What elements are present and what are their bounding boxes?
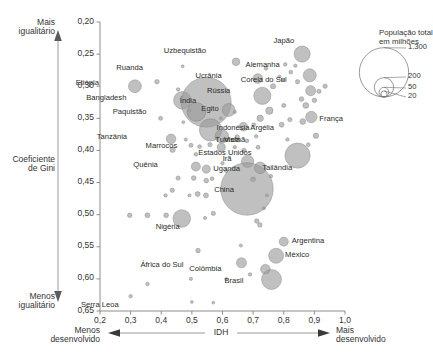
bubble-label-egito: Egito — [201, 105, 218, 113]
bubble-unlabeled-19 — [145, 213, 150, 218]
x-tick-label-4: 0,6 — [217, 316, 229, 325]
y-tick-label-5: 0,45 — [77, 177, 94, 186]
bubble-uzbequistão — [232, 58, 240, 66]
x-axis-right-annotation-line2: desenvolvido — [336, 335, 386, 344]
legend-bubble-1300 — [359, 48, 408, 97]
bubble-unlabeled-26 — [190, 301, 193, 304]
bubble-label-bangladesh: Bangladesh — [86, 94, 126, 102]
bubble-label-estados-unidos: Estados Unidos — [198, 149, 251, 157]
bubble-label-tunísia: Tunísia — [215, 136, 240, 144]
x-axis-title: IDH — [214, 328, 229, 337]
bubble-unlabeled-18 — [127, 213, 132, 218]
bubble-egito — [222, 103, 235, 116]
bubble-unlabeled-70 — [181, 65, 184, 68]
bubble-unlabeled-13 — [164, 194, 168, 198]
y-tick-label-3: 0,35 — [77, 113, 94, 122]
bubble-unlabeled-20 — [164, 213, 169, 218]
bubble-unlabeled-31 — [255, 219, 260, 224]
bubble-unlabeled-39 — [257, 115, 263, 121]
bubble-etiópia — [128, 80, 141, 93]
x-tick-label-6: 0,8 — [278, 316, 290, 325]
y-tick-label-6: 0,50 — [77, 209, 94, 218]
bubble-label-rússia: Rússia — [207, 87, 230, 95]
bubble-unlabeled-12 — [210, 177, 214, 181]
bubble-label-paquistão: Paquistão — [113, 108, 147, 116]
bubble-unlabeled-50 — [303, 103, 309, 109]
bubble-unlabeled-69 — [182, 121, 185, 124]
bubble-áfrica-do-sul — [236, 258, 246, 268]
bubble-unlabeled-47 — [294, 64, 298, 68]
bubble-uganda — [202, 165, 210, 173]
bubble-unlabeled-5 — [189, 143, 193, 147]
bubble-label-áfrica-do-sul: África do Sul — [140, 261, 183, 269]
y-tick-label-7: 0,55 — [77, 241, 94, 250]
bubble-unlabeled-48 — [295, 80, 299, 84]
bubble-unlabeled-62 — [256, 145, 260, 149]
bubble-unlabeled-27 — [212, 301, 215, 304]
y-axis-top-annotation-line2: igualitário — [19, 27, 55, 36]
bubble-label-ucrânia: Ucrânia — [196, 72, 222, 80]
bubble-serra-leoa — [129, 294, 133, 298]
x-tick-label-3: 0,5 — [186, 316, 198, 325]
legend-value-20: 20 — [408, 92, 416, 100]
legend-value-1300: 1.300 — [408, 43, 427, 51]
bubble-label-méxico: México — [285, 251, 309, 259]
bubble-unlabeled-60 — [313, 133, 318, 138]
x-tick-label-2: 0,4 — [155, 316, 167, 325]
bubble-unlabeled-23 — [196, 248, 201, 253]
bubble-unlabeled-22 — [211, 211, 215, 215]
legend-bubble-50 — [379, 87, 389, 97]
bubble-label-tailândia: Tailândia — [262, 164, 292, 172]
bubble-unlabeled-46 — [289, 70, 293, 74]
bubble-unlabeled-8 — [194, 152, 198, 156]
bubble-label-nigéria: Nigéria — [156, 223, 180, 231]
bubble-unlabeled-1 — [176, 88, 180, 92]
y-tick-label-8: 0,60 — [77, 273, 94, 282]
bubble-unlabeled-55 — [288, 117, 292, 121]
x-axis-left-annotation-line2: desenvolvido — [50, 335, 100, 344]
bubble-argentina — [279, 237, 288, 246]
bubble-unlabeled-57 — [279, 122, 284, 127]
legend-value-200: 200 — [408, 72, 421, 80]
bubble-label-quênia: Quênia — [133, 161, 158, 169]
bubble-alemanha — [303, 69, 316, 82]
bubble-label-marrocos: Marrocos — [146, 142, 178, 150]
bubble-unlabeled-29 — [239, 244, 242, 247]
bubble-label-uganda: Uganda — [213, 165, 240, 173]
bubble-label-frança: França — [319, 115, 343, 123]
y-tick-label-1: 0,25 — [77, 49, 94, 58]
bubble-méxico — [269, 248, 284, 263]
bubble-unlabeled-54 — [300, 119, 306, 125]
x-tick-label-7: 0,9 — [308, 316, 320, 325]
bubble-label-etiópia: Etiópia — [76, 79, 99, 87]
chart-axes — [54, 22, 345, 337]
y-axis-bottom-annotation-line2: igualitário — [19, 301, 55, 310]
bubble-frança — [306, 111, 317, 122]
bubble-unlabeled-52 — [317, 89, 321, 93]
bubble-unlabeled-49 — [299, 97, 304, 102]
bubble-unlabeled-16 — [195, 192, 200, 197]
bubble-quênia — [191, 162, 200, 171]
size-legend — [359, 48, 408, 97]
bubble-label-índia: Índia — [180, 97, 196, 105]
bubble-unlabeled-38 — [254, 135, 258, 139]
bubble-unlabeled-45 — [284, 63, 288, 67]
bubble-chart — [0, 0, 433, 359]
bubble-unlabeled-10 — [204, 178, 209, 183]
bubble-unlabeled-7 — [208, 143, 212, 147]
bubble-brasil — [262, 270, 282, 290]
x-tick-label-1: 0,3 — [125, 316, 137, 325]
y-tick-label-0: 0,20 — [77, 17, 94, 26]
bubble-label-argentina: Argentina — [292, 237, 325, 245]
bubble-unlabeled-58 — [286, 138, 290, 142]
x-tick-label-5: 0,7 — [247, 316, 259, 325]
bubble-unlabeled-15 — [188, 194, 191, 197]
y-tick-label-4: 0,40 — [77, 145, 94, 154]
bubble-japão — [294, 46, 310, 62]
bubble-unlabeled-17 — [203, 193, 208, 198]
bubble-label-serra-leoa: Serra Leoa — [81, 301, 119, 309]
bubble-unlabeled-21 — [203, 216, 206, 219]
bubble-ruanda — [155, 79, 160, 84]
bubble-coreia-do-sul — [306, 86, 316, 96]
bubble-label-colômbia: Colômbia — [189, 265, 221, 273]
